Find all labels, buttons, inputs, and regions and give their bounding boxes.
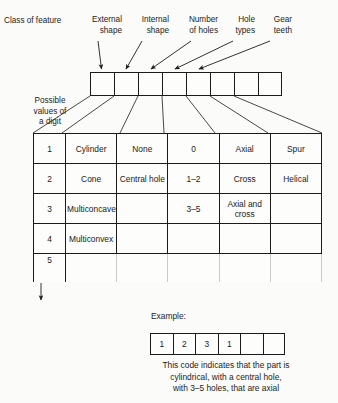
table-row: 2 Cone Central hole 1–2 Cross Helical [34,164,322,194]
example-cell[interactable] [240,333,263,355]
table-cell: None [117,134,168,164]
table-cell [117,224,168,254]
table-cell: Spur [270,134,321,164]
table-cell: Axial and cross [219,194,270,224]
code-strip-cell[interactable] [258,72,282,96]
table-cell [270,224,321,254]
digit-value: 1 [34,134,66,164]
table-cell: 3–5 [168,194,219,224]
table-cell [117,254,168,282]
digit-value: 4 [34,224,66,254]
table-cell [219,254,270,282]
code-strip-cell[interactable] [90,72,114,96]
table-cell [117,194,168,224]
technical-diagram: Class of feature External shape Internal… [0,0,338,403]
example-cell[interactable]: 2 [173,333,196,355]
table-cell: Helical [270,164,321,194]
header-arrows [98,41,270,69]
coding-table: 1 Cylinder None 0 Axial Spur 2 Cone Cent… [33,133,322,282]
table-cell [270,254,321,282]
digit-value: 3 [34,194,66,224]
table-row: 5 [34,254,322,282]
example-code-strip: 1 2 3 1 [150,333,285,355]
table-cell: Cone [66,164,117,194]
table-cell: Axial [219,134,270,164]
table-cell: 1–2 [168,164,219,194]
coding-table-wrapper: 1 Cylinder None 0 Axial Spur 2 Cone Cent… [33,133,322,282]
table-cell [219,224,270,254]
example-cell[interactable]: 1 [150,333,173,355]
table-cell: Cylinder [66,134,117,164]
code-strip-cell[interactable] [138,72,162,96]
table-cell [168,224,219,254]
table-row: 1 Cylinder None 0 Axial Spur [34,134,322,164]
example-cell[interactable]: 1 [218,333,241,355]
table-row: 4 Multiconvex [34,224,322,254]
code-strip-cell[interactable] [114,72,138,96]
table-cell: Central hole [117,164,168,194]
example-cell[interactable] [263,333,286,355]
code-strip-cell[interactable] [162,72,186,96]
table-cell: Multiconcave [66,194,117,224]
fan-lines [33,96,322,133]
code-strip [90,72,282,96]
digit-value: 5 [34,254,66,282]
example-label: Example: [151,311,186,321]
table-row: 3 Multiconcave 3–5 Axial and cross [34,194,322,224]
table-cell: Cross [219,164,270,194]
example-caption: This code indicates that the part is cyl… [128,360,324,395]
table-cell [168,254,219,282]
code-strip-cell[interactable] [234,72,258,96]
table-cell: 0 [168,134,219,164]
table-cell [66,254,117,282]
table-cell [270,194,321,224]
code-strip-cell[interactable] [186,72,210,96]
example-cell[interactable]: 3 [195,333,218,355]
digit-value: 2 [34,164,66,194]
table-cell: Multiconvex [66,224,117,254]
code-strip-cell[interactable] [210,72,234,96]
